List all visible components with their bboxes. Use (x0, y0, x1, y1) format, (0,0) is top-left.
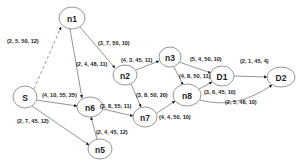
edge-label-S-n1: (2, 5, 50, 12) (7, 38, 39, 44)
edge-label-n2-n7: (3, 8, 50, 20) (136, 92, 168, 98)
edge-label-n8-D2: (2, 5, 48, 10) (225, 99, 257, 105)
edge-n8-D1 (199, 82, 212, 89)
edge-S-n1 (34, 27, 61, 89)
edge-D1-D2 (234, 76, 267, 77)
node-n3: n3 (159, 47, 181, 67)
edge-n7-n8 (157, 101, 175, 113)
node-label: S (22, 93, 28, 103)
node-label: n5 (95, 145, 105, 155)
edge-label-n3-D1: (5, 4, 50, 10) (190, 56, 222, 62)
node-label: n6 (85, 103, 95, 113)
node-D2: D2 (267, 67, 295, 87)
edge-label-n2-n3: (4, 3, 45, 11) (121, 57, 153, 63)
edge-label-S-n6: (4, 10, 55, 25) (42, 92, 77, 98)
edge-n3-D1 (179, 62, 211, 73)
node-n2: n2 (113, 65, 137, 85)
node-label: n3 (165, 53, 175, 63)
edge-label-n1-n2: (3, 7, 50, 10) (98, 40, 130, 46)
node-n1: n1 (59, 7, 85, 29)
node-label: D1 (217, 72, 228, 82)
node-label: n2 (120, 71, 130, 81)
edge-label-n8-D1: (3, 6, 45, 10) (204, 89, 236, 95)
edge-S-n6 (36, 100, 77, 106)
node-label: n1 (67, 14, 77, 24)
node-label: n7 (140, 113, 150, 123)
graph-canvas: n1n2n3n6n7n5n8D1D2S (2, 5, 50, 12)(3, 7,… (0, 0, 308, 168)
edge-label-n6-n7: (3, 8, 55, 11) (100, 103, 132, 109)
edge-label-n5-n6: (2, 4, 45, 12) (96, 129, 128, 135)
nodes-layer: n1n2n3n6n7n5n8D1D2S (13, 7, 295, 159)
edge-label-n7-n8: (4, 4, 50, 10) (159, 114, 191, 120)
edge-label-n1-n6: (2, 4, 48, 11) (76, 61, 108, 67)
node-n5: n5 (88, 139, 112, 159)
edge-label-S-n5: (2, 7, 45, 12) (17, 118, 49, 124)
edge-n6-n7 (103, 109, 133, 116)
edge-n5-n6 (91, 117, 97, 139)
edge-label-D1-D2: (2, 1, 45, 4) (240, 58, 269, 64)
edge-label-n3-n8: (4, 8, 50, 11) (179, 73, 211, 79)
node-n8: n8 (173, 84, 201, 106)
node-n7: n7 (133, 107, 157, 127)
node-S: S (13, 86, 37, 108)
node-label: n8 (182, 91, 192, 101)
node-label: D2 (276, 73, 287, 83)
node-D1: D1 (210, 66, 234, 86)
edges-layer (32, 27, 272, 145)
